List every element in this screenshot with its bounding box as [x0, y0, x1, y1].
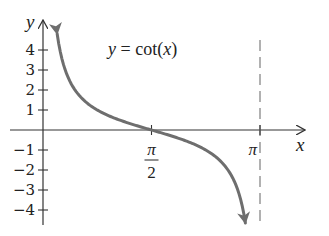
y-tick-label: −3 — [13, 181, 35, 199]
x-axis-label: x — [295, 134, 305, 155]
y-tick-label: −1 — [13, 141, 35, 159]
x-tick-label-numerator: π — [147, 140, 156, 159]
chart-title: y = cot(x) — [106, 39, 177, 60]
y-tick-label: 1 — [25, 101, 35, 119]
cot-curve — [57, 34, 245, 223]
y-tick-label: −2 — [13, 161, 35, 179]
cot-chart: 4321−1−2−3−4 π2π y x y = cot(x) — [0, 0, 329, 236]
x-tick-label-denominator: 2 — [147, 163, 156, 182]
x-tick-label: π — [248, 140, 257, 159]
y-tick-label: −4 — [13, 201, 35, 219]
y-tick-label: 3 — [25, 61, 35, 79]
y-tick-label: 4 — [25, 41, 35, 59]
y-tick-label: 2 — [25, 81, 35, 99]
y-axis-label: y — [24, 11, 35, 32]
